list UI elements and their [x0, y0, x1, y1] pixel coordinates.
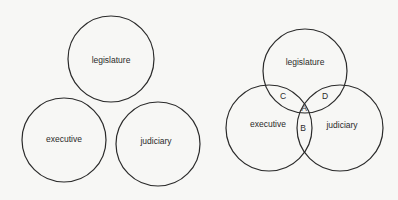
- overlapping-powers-diagram: legislature executive judiciary A B C D: [226, 29, 383, 171]
- legislature-label: legislature: [286, 57, 325, 67]
- executive-label: executive: [46, 134, 82, 144]
- separate-powers-diagram: legislature executive judiciary: [22, 16, 200, 186]
- legislature-label: legislature: [92, 55, 131, 65]
- region-a-label: A: [301, 103, 307, 113]
- judiciary-label: judiciary: [139, 136, 172, 146]
- region-b-label: B: [300, 123, 306, 133]
- judiciary-label: judiciary: [325, 120, 358, 130]
- legislature-circle: [263, 29, 347, 113]
- figure: legislature executive judiciary legislat…: [0, 0, 398, 200]
- executive-label: executive: [250, 119, 286, 129]
- region-c-label: C: [280, 91, 286, 101]
- region-d-label: D: [322, 91, 328, 101]
